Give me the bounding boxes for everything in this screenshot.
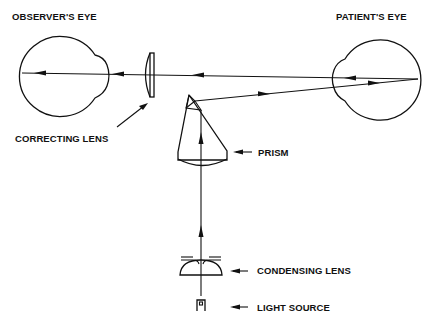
arrow-left-icon [192, 73, 204, 78]
observers-eye-label: OBSERVER'S EYE [12, 11, 97, 22]
ophthalmoscope-diagram: OBSERVER'S EYE PATIENT'S EYE CORRECTING … [0, 0, 428, 323]
condensing-lens-label: CONDENSING LENS [257, 265, 351, 276]
arrow-left-icon [112, 72, 124, 77]
arrow-left-icon [34, 71, 46, 76]
source-ray [199, 110, 204, 296]
prism-pointer [233, 150, 252, 155]
light-source-pointer [230, 305, 248, 310]
arrow-right-icon [258, 91, 270, 96]
arrow-left-icon [344, 76, 356, 81]
arrow-right-icon [368, 81, 380, 86]
light-source-icon [197, 300, 205, 311]
observers-eye-icon [19, 37, 108, 117]
correcting-lens-pointer [117, 103, 148, 127]
arrow-up-icon [199, 225, 204, 237]
patients-eye-label: PATIENT'S EYE [336, 11, 407, 22]
illumination-ray [195, 79, 418, 101]
light-source-label: LIGHT SOURCE [257, 302, 330, 313]
prism-icon [178, 95, 227, 166]
arrow-up-icon [199, 132, 204, 144]
correcting-lens-label: CORRECTING LENS [15, 133, 108, 144]
condensing-lens-pointer [230, 269, 248, 274]
prism-label: PRISM [258, 147, 289, 158]
return-ray [22, 71, 418, 81]
